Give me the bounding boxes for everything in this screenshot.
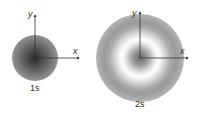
- 1s-x-label: x: [73, 46, 78, 56]
- 2s-y-label: y: [132, 8, 137, 18]
- 2s-x-label: x: [180, 46, 185, 56]
- 1s-label: 1s: [30, 83, 40, 93]
- 2s-label: 2s: [135, 99, 145, 109]
- 1s-y-label: y: [28, 9, 33, 19]
